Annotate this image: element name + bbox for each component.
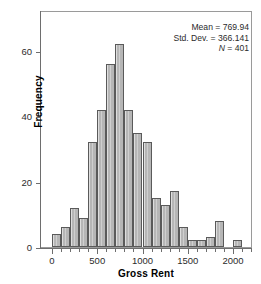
x-axis-tick-minor — [161, 249, 162, 252]
statistics-annotation: Mean = 769.94 Std. Dev. = 366.141 N = 40… — [173, 22, 249, 54]
histogram-bar — [188, 240, 197, 247]
n-value: = 401 — [225, 43, 249, 53]
histogram-bar — [115, 44, 124, 247]
x-axis-tick-minor — [197, 249, 198, 252]
x-axis-tick-label: 1500 — [168, 256, 208, 266]
histogram-bar — [179, 227, 188, 247]
histogram-bar — [88, 142, 97, 247]
histogram-bar — [206, 237, 215, 247]
histogram-bar — [197, 240, 206, 247]
y-axis-tick — [36, 248, 40, 249]
histogram-bar — [170, 191, 179, 247]
n-text: N = 401 — [173, 43, 249, 54]
histogram-bar — [52, 234, 61, 247]
x-axis-tick-minor — [170, 249, 171, 252]
histogram-bar — [133, 133, 142, 247]
x-axis-tick-label: 0 — [32, 256, 72, 266]
x-axis-tick-major — [143, 249, 144, 254]
histogram-bar — [106, 64, 115, 247]
x-axis-tick-label: 2000 — [213, 256, 253, 266]
x-axis-tick-minor — [152, 249, 153, 252]
x-axis-tick-minor — [61, 249, 62, 252]
x-axis-tick-major — [97, 249, 98, 254]
x-axis-tick-major — [233, 249, 234, 254]
x-axis-line — [40, 248, 252, 249]
histogram-bar — [233, 240, 242, 247]
x-axis-tick-minor — [133, 249, 134, 252]
x-axis-tick-label: 1000 — [123, 256, 163, 266]
histogram-figure: Frequency Gross Rent Mean = 769.94 Std. … — [0, 0, 261, 284]
y-axis-tick — [36, 183, 40, 184]
y-axis-tick-label: 0 — [6, 243, 32, 253]
mean-text: Mean = 769.94 — [173, 22, 249, 33]
y-axis-tick — [36, 52, 40, 53]
histogram-bar — [215, 221, 224, 247]
histogram-bar — [161, 205, 170, 247]
x-axis-label: Gross Rent — [40, 268, 252, 279]
histogram-bar — [70, 208, 79, 247]
x-axis-tick-major — [52, 249, 53, 254]
histogram-bar — [61, 227, 70, 247]
y-axis-label: Frequency — [33, 62, 44, 142]
y-axis-tick-label: 60 — [6, 47, 32, 57]
x-axis-tick-minor — [215, 249, 216, 252]
x-axis-tick-major — [188, 249, 189, 254]
x-axis-tick-minor — [224, 249, 225, 252]
x-axis-tick-minor — [206, 249, 207, 252]
x-axis-tick-minor — [70, 249, 71, 252]
x-axis-tick-minor — [106, 249, 107, 252]
stddev-text: Std. Dev. = 366.141 — [173, 33, 249, 44]
x-axis-tick-label: 500 — [77, 256, 117, 266]
y-axis-tick — [36, 117, 40, 118]
cropped-caption-sliver — [2, 0, 72, 9]
histogram-bar — [143, 142, 152, 247]
y-axis-tick-label: 20 — [6, 178, 32, 188]
x-axis-tick-minor — [179, 249, 180, 252]
histogram-bar — [97, 110, 106, 247]
x-axis-tick-minor — [79, 249, 80, 252]
x-axis-tick-minor — [124, 249, 125, 252]
histogram-bar — [152, 198, 161, 247]
histogram-bar — [79, 218, 88, 247]
x-axis-tick-minor — [115, 249, 116, 252]
y-axis-tick-label: 40 — [6, 112, 32, 122]
x-axis-tick-minor — [88, 249, 89, 252]
x-axis-tick-minor — [251, 249, 252, 252]
x-axis-tick-minor — [242, 249, 243, 252]
histogram-bar — [124, 110, 133, 247]
